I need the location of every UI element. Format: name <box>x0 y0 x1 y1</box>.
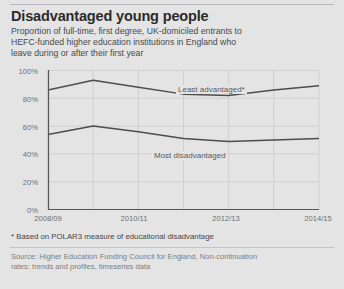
line-chart-plot <box>0 0 344 289</box>
chart-card: Disadvantaged young people Proportion of… <box>0 0 344 289</box>
chart-footnote: * Based on POLAR3 measure of educational… <box>11 232 214 241</box>
chart-source: Source: Higher Education Funding Council… <box>11 252 271 272</box>
series-label-most-disadvantaged: Most disadvantaged <box>152 151 228 160</box>
series-label-least-advantaged: Least advantaged* <box>176 85 247 94</box>
footnote-divider <box>10 247 334 248</box>
